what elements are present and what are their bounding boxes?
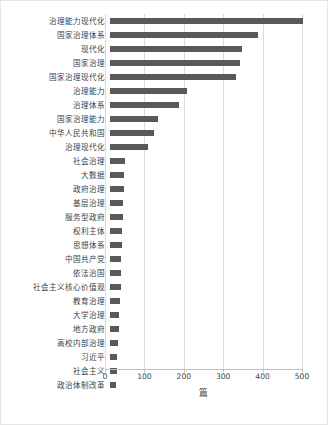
- category-label: 治理现代化: [9, 143, 110, 152]
- category-label: 社会治理: [9, 157, 110, 166]
- bar-track: [110, 168, 307, 182]
- bar-row: 高校内部治理: [9, 336, 321, 350]
- bar-track: [110, 210, 307, 224]
- x-tick-label-200: 200: [177, 372, 192, 382]
- bar: [110, 284, 121, 290]
- bar-track: [110, 238, 307, 252]
- x-axis-line: [105, 369, 303, 370]
- bar-row: 国家治理能力: [9, 112, 321, 126]
- bar-row: 基层治理: [9, 196, 321, 210]
- category-label: 高校内部治理: [9, 339, 110, 348]
- bar: [110, 172, 124, 178]
- bar-row: 权利主体: [9, 224, 321, 238]
- bar-track: [110, 182, 307, 196]
- bar-row: 中国共产党: [9, 252, 321, 266]
- category-label: 大数据: [9, 171, 110, 180]
- bar-row: 国家治理体系: [9, 28, 321, 42]
- bar-row: 治理现代化: [9, 140, 321, 154]
- bar: [110, 130, 154, 136]
- x-axis-title: 篇: [105, 386, 302, 398]
- bar-row: 习近平: [9, 350, 321, 364]
- bar-row: 社会主义核心价值观: [9, 280, 321, 294]
- category-label: 基层治理: [9, 199, 110, 208]
- category-label: 国家治理: [9, 59, 110, 68]
- bar-row: 思想体系: [9, 238, 321, 252]
- bar-row: 国家治理: [9, 56, 321, 70]
- bar-row: 教育治理: [9, 294, 321, 308]
- bar-track: [110, 56, 307, 70]
- bar: [110, 88, 187, 94]
- bar-track: [110, 42, 307, 56]
- bar: [110, 270, 121, 276]
- bar-row: 国家治理现代化: [9, 70, 321, 84]
- bar: [110, 32, 258, 38]
- bar-track: [110, 322, 307, 336]
- bar-row: 依法治国: [9, 266, 321, 280]
- bar-track: [110, 28, 307, 42]
- x-tick-label-500: 500: [295, 372, 310, 382]
- bar-track: [110, 266, 307, 280]
- category-label: 治理体系: [9, 101, 110, 110]
- bar: [110, 340, 118, 346]
- bar: [110, 158, 125, 164]
- bar-row: 社会治理: [9, 154, 321, 168]
- category-label: 社会主义核心价值观: [9, 283, 110, 292]
- bar: [110, 228, 122, 234]
- bar-row: 大学治理: [9, 308, 321, 322]
- bar-track: [110, 336, 307, 350]
- category-label: 教育治理: [9, 297, 110, 306]
- bar: [110, 214, 123, 220]
- bar: [110, 144, 148, 150]
- bar-track: [110, 252, 307, 266]
- plot-area: 治理能力现代化国家治理体系现代化国家治理国家治理现代化治理能力治理体系国家治理能…: [1, 1, 327, 424]
- bar-row: 中华人民共和国: [9, 126, 321, 140]
- bar-track: [110, 140, 307, 154]
- bar: [110, 116, 158, 122]
- bar-track: [110, 84, 307, 98]
- bar-track: [110, 294, 307, 308]
- x-tick-label-400: 400: [255, 372, 270, 382]
- bar-track: [110, 126, 307, 140]
- category-label: 政府治理: [9, 185, 110, 194]
- category-label: 思想体系: [9, 241, 110, 250]
- category-label: 大学治理: [9, 311, 110, 320]
- category-label: 中国共产党: [9, 255, 110, 264]
- bar-row: 政府治理: [9, 182, 321, 196]
- bar-track: [110, 112, 307, 126]
- bar-row: 治理体系: [9, 98, 321, 112]
- category-label: 服务型政府: [9, 213, 110, 222]
- category-label: 现代化: [9, 45, 110, 54]
- bar: [110, 186, 124, 192]
- bar: [110, 200, 123, 206]
- bar: [110, 298, 120, 304]
- bar-track: [110, 70, 307, 84]
- category-label: 地方政府: [9, 325, 110, 334]
- bar-track: [110, 196, 307, 210]
- category-label: 权利主体: [9, 227, 110, 236]
- bar: [110, 74, 236, 80]
- bar-track: [110, 280, 307, 294]
- bar-chart-figure: 治理能力现代化国家治理体系现代化国家治理国家治理现代化治理能力治理体系国家治理能…: [0, 0, 328, 425]
- bar-row: 服务型政府: [9, 210, 321, 224]
- category-label: 治理能力现代化: [9, 17, 110, 26]
- category-label: 依法治国: [9, 269, 110, 278]
- bar: [110, 102, 179, 108]
- bar: [110, 18, 303, 24]
- bar: [110, 46, 242, 52]
- bar-track: [110, 308, 307, 322]
- category-label: 国家治理能力: [9, 115, 110, 124]
- bar: [110, 354, 117, 360]
- category-label: 社会主义: [9, 367, 110, 376]
- bar-row: 地方政府: [9, 322, 321, 336]
- category-label: 中华人民共和国: [9, 129, 110, 138]
- bar-row: 现代化: [9, 42, 321, 56]
- x-axis-tick-labels: 0100200300400500: [105, 372, 302, 384]
- bar-track: [110, 154, 307, 168]
- bar-row: 治理能力: [9, 84, 321, 98]
- bar: [110, 256, 121, 262]
- category-label: 国家治理体系: [9, 31, 110, 40]
- category-label: 政治体制改革: [9, 381, 110, 390]
- bar-row: 大数据: [9, 168, 321, 182]
- bar-track: [110, 14, 307, 28]
- bar: [110, 326, 119, 332]
